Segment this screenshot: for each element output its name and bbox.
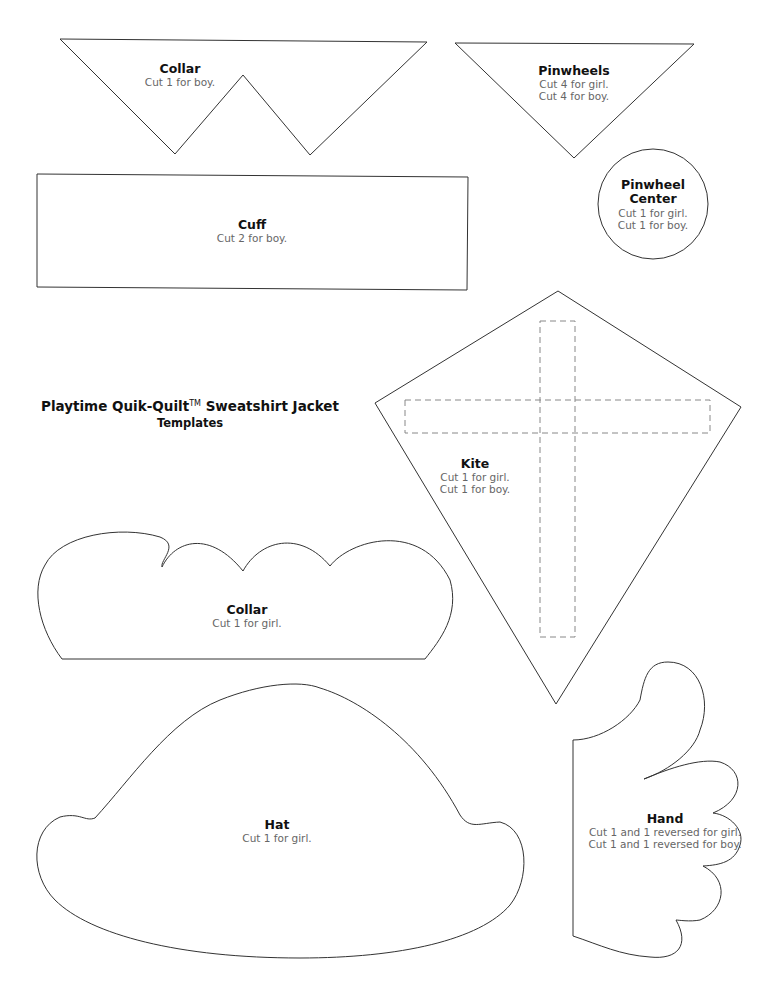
pinwheels-instruction-boy: Cut 4 for boy. bbox=[514, 90, 634, 102]
hand-instruction-girl: Cut 1 and 1 reversed for girl. bbox=[570, 826, 760, 838]
collar-boy-instruction: Cut 1 for boy. bbox=[120, 76, 240, 88]
pinwheel-center-instruction-boy: Cut 1 for boy. bbox=[593, 219, 713, 231]
pinwheel-center-label: Pinwheel Center Cut 1 for girl. Cut 1 fo… bbox=[593, 178, 713, 231]
kite-label: Kite Cut 1 for girl. Cut 1 for boy. bbox=[425, 457, 525, 496]
kite-horizontal-spar bbox=[405, 400, 710, 433]
pinwheel-center-title-2: Center bbox=[593, 192, 713, 206]
pinwheels-instruction-girl: Cut 4 for girl. bbox=[514, 78, 634, 90]
template-shapes bbox=[0, 0, 776, 1004]
pinwheels-label: Pinwheels Cut 4 for girl. Cut 4 for boy. bbox=[514, 64, 634, 103]
kite-vertical-spar bbox=[540, 321, 575, 637]
hand-outline bbox=[573, 662, 741, 957]
hat-label: Hat Cut 1 for girl. bbox=[227, 818, 327, 844]
hand-instruction-boy: Cut 1 and 1 reversed for boy. bbox=[570, 838, 760, 850]
kite-title: Kite bbox=[425, 457, 525, 471]
pinwheels-title: Pinwheels bbox=[514, 64, 634, 78]
pinwheel-center-title-1: Pinwheel bbox=[593, 178, 713, 192]
kite-instruction-girl: Cut 1 for girl. bbox=[425, 471, 525, 483]
collar-girl-outline bbox=[38, 532, 453, 659]
hat-title: Hat bbox=[227, 818, 327, 832]
kite-outline bbox=[375, 291, 741, 704]
document-title-main: Playtime Quik-QuiltTM Sweatshirt Jacket bbox=[20, 398, 360, 416]
collar-boy-label: Collar Cut 1 for boy. bbox=[120, 62, 240, 88]
hand-title: Hand bbox=[570, 812, 760, 826]
hand-label: Hand Cut 1 and 1 reversed for girl. Cut … bbox=[570, 812, 760, 851]
hat-instruction: Cut 1 for girl. bbox=[227, 832, 327, 844]
cuff-title: Cuff bbox=[192, 218, 312, 232]
document-title: Playtime Quik-QuiltTM Sweatshirt Jacket … bbox=[20, 398, 360, 430]
collar-boy-outline bbox=[60, 39, 427, 155]
collar-girl-title: Collar bbox=[187, 603, 307, 617]
collar-girl-instruction: Cut 1 for girl. bbox=[187, 617, 307, 629]
kite-instruction-boy: Cut 1 for boy. bbox=[425, 483, 525, 495]
pinwheel-center-instruction-girl: Cut 1 for girl. bbox=[593, 207, 713, 219]
document-subtitle: Templates bbox=[20, 416, 360, 431]
cuff-label: Cuff Cut 2 for boy. bbox=[192, 218, 312, 244]
collar-boy-title: Collar bbox=[120, 62, 240, 76]
collar-girl-label: Collar Cut 1 for girl. bbox=[187, 603, 307, 629]
cuff-instruction: Cut 2 for boy. bbox=[192, 232, 312, 244]
